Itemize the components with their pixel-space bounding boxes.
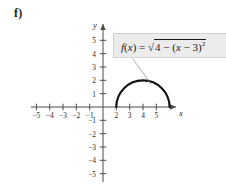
x-axis-arrow-icon xyxy=(170,104,176,109)
formula-radical: √4 − (x − 3)2 xyxy=(148,38,206,55)
coordinate-plot: −5 −4 −3 −2 −1 2 3 4 5 5 4 3 2 1 −1 −2 −… xyxy=(0,0,226,194)
x-tick-label: −5 xyxy=(32,111,40,120)
x-tick-label: −3 xyxy=(59,111,67,120)
x-tick-label: −4 xyxy=(46,111,54,120)
x-tick-label: 4 xyxy=(141,111,145,120)
y-axis-label: y xyxy=(92,20,97,30)
y-tick-label: 5 xyxy=(92,36,96,45)
formula-close-paren: ) xyxy=(133,41,137,53)
radicand-constant: 4 xyxy=(155,41,161,53)
x-tick-label: 3 xyxy=(128,111,132,120)
y-tick-label: 1 xyxy=(92,90,96,99)
formula-text: f(x) = √4 − (x − 3)2 xyxy=(121,38,206,55)
y-tick-label: −5 xyxy=(88,170,96,179)
formula-radicand: 4 − (x − 3)2 xyxy=(154,39,206,55)
inner-variable: x xyxy=(176,41,181,53)
y-tick-label: −4 xyxy=(88,156,96,165)
y-tick-label: 2 xyxy=(92,76,96,85)
x-tick-label: 5 xyxy=(154,111,158,120)
formula-equals: = xyxy=(139,41,145,53)
inner-minus: − xyxy=(184,41,190,53)
formula-exponent: 2 xyxy=(202,40,206,48)
y-tick-label: −2 xyxy=(88,130,96,139)
y-tick-label: −3 xyxy=(88,143,96,152)
radicand-minus: − xyxy=(163,41,169,53)
y-axis-arrow-icon xyxy=(100,24,105,30)
y-tick-label: −1 xyxy=(88,116,96,125)
y-tick-label: 3 xyxy=(92,63,96,72)
y-tick-label: 4 xyxy=(92,50,96,59)
x-axis-label: x xyxy=(178,108,183,118)
x-tick-label: −2 xyxy=(72,111,80,120)
x-tick-label: 2 xyxy=(114,111,118,120)
figure-panel: f) xyxy=(0,0,226,194)
function-curve xyxy=(116,80,169,107)
